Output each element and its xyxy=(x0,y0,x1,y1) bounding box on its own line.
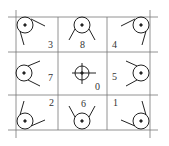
cell-label-7: 7 xyxy=(48,73,53,83)
crosshair-center-icon xyxy=(72,63,96,84)
cell-label-3: 3 xyxy=(48,40,53,50)
pulley-bottom-icon xyxy=(69,106,95,129)
cell-label-6: 6 xyxy=(81,99,86,109)
pulley-bottom-right-icon xyxy=(121,101,149,129)
pulley-left-icon xyxy=(16,61,40,86)
cell-label-1: 1 xyxy=(113,98,118,108)
pulley-top-left-icon xyxy=(17,17,45,45)
pulley-top-right-icon xyxy=(121,17,149,45)
cell-label-4: 4 xyxy=(112,40,117,50)
cell-label-2: 2 xyxy=(49,98,54,108)
cell-label-0: 0 xyxy=(95,82,100,92)
grid-diagram xyxy=(0,0,169,146)
cell-label-8: 8 xyxy=(80,40,85,50)
pulley-bottom-left-icon xyxy=(17,101,45,129)
pulley-right-icon xyxy=(126,61,149,86)
pulley-top-icon xyxy=(69,17,95,40)
cell-label-5: 5 xyxy=(112,72,117,82)
